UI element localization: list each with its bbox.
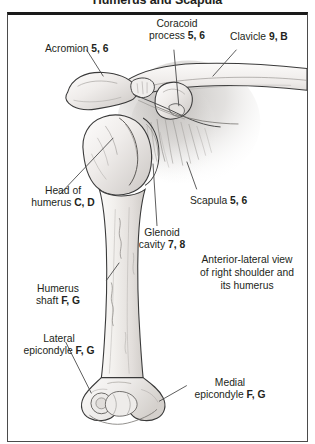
label-medial-line2: epicondyle xyxy=(195,389,247,400)
label-shaft-line1: Humerus xyxy=(37,283,79,294)
label-coracoid-refs: 5, 6 xyxy=(188,30,205,41)
label-glenoid-refs: 7, 8 xyxy=(168,239,185,250)
label-lateral-line1: Lateral xyxy=(43,333,74,344)
label-shaft-line2: shaft xyxy=(36,295,61,306)
label-lateral-epicondyle: Lateral epicondyle F, G xyxy=(7,333,113,357)
label-lateral-line2: epicondyle xyxy=(24,345,76,356)
label-clavicle-refs: 9, B xyxy=(269,31,288,42)
label-clavicle: Clavicle 9, B xyxy=(230,31,288,43)
label-coracoid-process: Coracoid process 5, 6 xyxy=(130,18,224,42)
label-lateral-refs: F, G xyxy=(76,345,95,356)
view-caption: Anterior-lateral view of right shoulder … xyxy=(188,253,306,293)
label-head-refs: C, D xyxy=(74,197,95,208)
caption-line-2: of right shoulder and xyxy=(200,267,294,278)
label-glenoid-line1: Glenoid xyxy=(144,227,180,238)
label-glenoid-cavity: Glenoid cavity 7, 8 xyxy=(116,227,208,251)
label-glenoid-line2: cavity xyxy=(139,239,168,250)
label-acromion-refs: 5, 6 xyxy=(91,43,108,54)
label-scapula-text: Scapula xyxy=(190,195,230,206)
humerus-head xyxy=(83,115,152,195)
label-head-line2: humerus xyxy=(31,197,74,208)
label-head-of-humerus: Head of humerus C, D xyxy=(11,185,115,209)
label-coracoid-line1: Coracoid xyxy=(156,18,197,29)
label-acromion: Acromion 5, 6 xyxy=(45,43,109,55)
caption-line-3: its humerus xyxy=(220,280,273,291)
label-coracoid-line2: process xyxy=(149,30,188,41)
label-medial-line1: Medial xyxy=(215,377,245,388)
label-humerus-shaft: Humerus shaft F, G xyxy=(12,283,104,307)
label-medial-refs: F, G xyxy=(247,389,266,400)
caption-line-1: Anterior-lateral view xyxy=(202,254,293,265)
label-scapula-refs: 5, 6 xyxy=(230,195,247,206)
anatomy-figure: Humerus and Scapula xyxy=(0,0,315,444)
figure-title: Humerus and Scapula xyxy=(0,0,315,8)
label-medial-epicondyle: Medial epicondyle F, G xyxy=(174,377,286,401)
label-shaft-refs: F, G xyxy=(61,295,80,306)
label-acromion-text: Acromion xyxy=(45,43,91,54)
distal-humerus-condyles xyxy=(82,378,165,425)
label-clavicle-text: Clavicle xyxy=(230,31,269,42)
label-scapula: Scapula 5, 6 xyxy=(190,195,247,207)
label-head-line1: Head of xyxy=(45,185,81,196)
figure-panel: Acromion 5, 6 Coracoid process 5, 6 Clav… xyxy=(7,12,308,442)
